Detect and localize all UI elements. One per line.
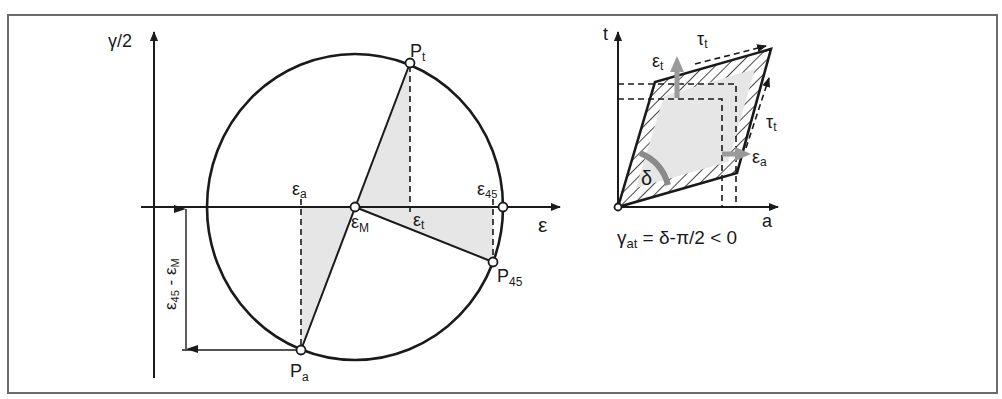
point-eps-max	[499, 203, 508, 212]
label-pa: Pa	[290, 361, 309, 384]
label-eps-m: εM	[351, 212, 369, 235]
gamma-axis-label: γ/2	[108, 31, 132, 51]
eps-a-label: εa	[752, 147, 767, 169]
epsilon-axis-label: ε	[538, 213, 547, 236]
dimension-label: ε45 - εM	[161, 258, 181, 310]
mohr-circle-plot: γ/2 ε Pt Pa P45 εa εM εt ε45 ε45 - εM	[108, 31, 560, 384]
deformed-element-diagram: t a τt τt εt εa δ γat = δ-π/2 < 0	[603, 24, 778, 251]
eps-t-label: εt	[652, 51, 664, 73]
mohr-strain-circle-figure: γ/2 ε Pt Pa P45 εa εM εt ε45 ε45 - εM	[0, 0, 1002, 399]
tau-right-label: τt	[766, 112, 777, 134]
eps-t-arrowhead	[670, 56, 684, 72]
tau-top-label: τt	[697, 29, 708, 51]
label-eps-45: ε45	[477, 179, 497, 200]
delta-label: δ	[641, 167, 652, 189]
point-pa	[297, 346, 306, 355]
t-axis-label: t	[603, 24, 608, 44]
shear-strain-formula: γat = δ-π/2 < 0	[617, 227, 737, 251]
point-eps-m	[351, 203, 360, 212]
a-axis-label: a	[762, 211, 773, 231]
origin-point	[615, 204, 622, 211]
label-pt: Pt	[410, 41, 426, 64]
label-p45: P45	[497, 266, 523, 289]
label-eps-a: εa	[292, 179, 307, 201]
